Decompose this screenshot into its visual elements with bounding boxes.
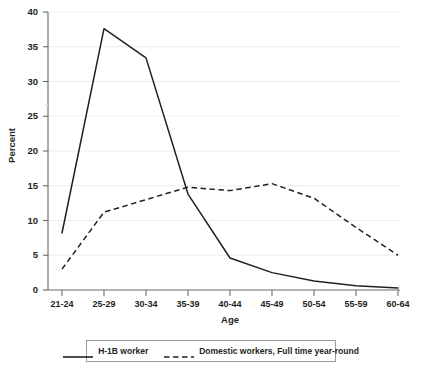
- y-tick-label-35: 35: [12, 42, 38, 52]
- legend-dashed-line-icon: [164, 347, 194, 355]
- x-tick-label-60-64: 60-64: [375, 299, 421, 309]
- series-line-domestic-workers: [62, 184, 398, 269]
- legend-label-domestic-workers: Domestic workers, Full time year-round: [199, 346, 359, 356]
- x-tick-label-40-44: 40-44: [207, 299, 253, 309]
- series-line-h1b-worker: [62, 29, 398, 288]
- legend-item-h1b-worker[interactable]: H-1B worker: [63, 346, 148, 356]
- y-tick-label-30: 30: [12, 77, 38, 87]
- y-tick-label-15: 15: [12, 181, 38, 191]
- legend-item-domestic-workers[interactable]: Domestic workers, Full time year-round: [164, 346, 359, 356]
- x-tick-label-25-29: 25-29: [81, 299, 127, 309]
- chart-legend: H-1B worker Domestic workers, Full time …: [86, 340, 336, 362]
- y-axis-title: Percent: [6, 116, 17, 176]
- x-tick-label-45-49: 45-49: [249, 299, 295, 309]
- legend-label-h1b-worker: H-1B worker: [98, 346, 148, 356]
- x-tick-label-50-54: 50-54: [291, 299, 337, 309]
- x-tick-label-55-59: 55-59: [333, 299, 379, 309]
- x-tick-label-21-24: 21-24: [39, 299, 85, 309]
- x-axis-title: Age: [200, 314, 260, 325]
- legend-solid-line-icon: [63, 347, 93, 355]
- chart-figure: 40 35 30 25 20 15 10 5 0 21-24 25-29 30-…: [0, 0, 422, 379]
- x-tick-label-30-34: 30-34: [123, 299, 169, 309]
- x-axis-ticks: [62, 290, 398, 296]
- scan-artifact-dot: [46, 104, 48, 106]
- y-tick-label-40: 40: [12, 7, 38, 17]
- y-tick-label-0: 0: [12, 285, 38, 295]
- x-tick-label-35-39: 35-39: [165, 299, 211, 309]
- y-tick-label-5: 5: [12, 250, 38, 260]
- figure-caption-partial: [10, 371, 410, 379]
- grid-lines: [48, 12, 400, 255]
- y-tick-label-10: 10: [12, 216, 38, 226]
- y-axis-ticks: [43, 12, 48, 290]
